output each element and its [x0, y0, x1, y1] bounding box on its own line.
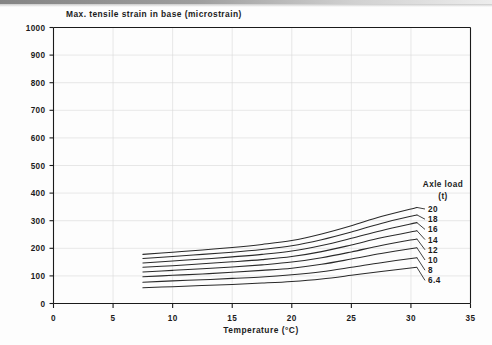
- x-axis-title: Temperature (°C): [223, 325, 298, 335]
- chart-page: Max. tensile strain in base (microstrain…: [0, 0, 492, 345]
- x-tick-label: 25: [346, 314, 356, 323]
- x-tick-label: 35: [466, 314, 476, 323]
- legend-leader-16: [417, 223, 425, 230]
- legend-title: Axle load: [423, 180, 463, 189]
- legend-leader-18: [417, 215, 425, 219]
- legend-leader-10: [417, 248, 425, 260]
- y-axis-tick-labels: 01002003004005006007008009001000: [26, 24, 46, 309]
- legend-entry-12: 12: [428, 246, 438, 255]
- x-tick-label: 20: [287, 314, 297, 323]
- y-tick-label: 500: [31, 162, 46, 171]
- y-tick-label: 400: [31, 189, 46, 198]
- legend-leader-14: [417, 231, 425, 240]
- y-tick-label: 800: [31, 79, 46, 88]
- line-chart: 01002003004005006007008009001000 0510152…: [0, 0, 492, 345]
- series-line-18: [143, 215, 417, 259]
- legend-entry-20: 20: [428, 205, 438, 214]
- x-tick-label: 10: [168, 314, 178, 323]
- y-tick-label: 1000: [26, 24, 46, 33]
- legend: Axle load(t)20181614121086.4: [417, 180, 463, 285]
- legend-entry-14: 14: [428, 236, 438, 245]
- x-tick-label: 30: [406, 314, 416, 323]
- legend-leader-8: [417, 258, 425, 271]
- x-tick-label: 0: [51, 314, 56, 323]
- y-axis-ticks: [50, 28, 54, 304]
- legend-entry-16: 16: [428, 225, 438, 234]
- legend-leader-6.4: [417, 267, 425, 280]
- legend-units: (t): [438, 192, 448, 201]
- x-axis-ticks: [54, 304, 471, 309]
- legend-entry-18: 18: [428, 215, 438, 224]
- legend-entry-6.4: 6.4: [428, 276, 441, 285]
- y-tick-label: 0: [41, 300, 46, 309]
- legend-leader-20: [417, 207, 425, 209]
- series-line-14: [143, 231, 417, 268]
- y-tick-label: 300: [31, 217, 46, 226]
- x-tick-label: 5: [111, 314, 116, 323]
- x-axis-tick-labels: 05101520253035: [51, 314, 475, 323]
- x-tick-label: 15: [227, 314, 237, 323]
- legend-entry-10: 10: [428, 256, 438, 265]
- y-tick-label: 600: [31, 134, 46, 143]
- y-tick-label: 900: [31, 51, 46, 60]
- y-tick-label: 700: [31, 106, 46, 115]
- legend-entry-8: 8: [428, 266, 433, 275]
- y-tick-label: 200: [31, 244, 46, 253]
- horizontal-gridlines: [54, 28, 471, 276]
- y-tick-label: 100: [31, 272, 46, 281]
- series-line-6.4: [143, 267, 417, 287]
